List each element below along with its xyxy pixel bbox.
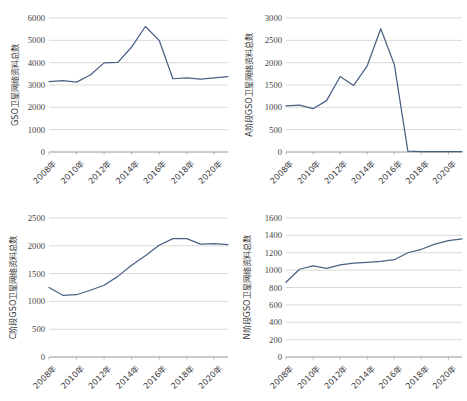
y-tick-label: 1400	[265, 230, 282, 240]
y-tick-label: 3000	[265, 13, 282, 23]
y-tick-label: 1200	[265, 248, 282, 258]
y-tick-label: 400	[269, 317, 282, 327]
series-line	[49, 26, 228, 82]
y-axis-title: GSO卫星网络资料总数	[10, 44, 20, 126]
y-tick-label: 2500	[28, 213, 45, 223]
x-tick-label: 2020年	[430, 363, 457, 390]
x-tick-label: 2018年	[169, 363, 196, 390]
x-tick-label: 2012年	[322, 363, 349, 390]
series-line	[286, 239, 462, 282]
y-tick-label: 3000	[28, 80, 45, 90]
y-tick-label: 500	[32, 324, 45, 334]
y-tick-label: 500	[269, 125, 282, 135]
series-line	[49, 239, 228, 296]
chart-panel-n-stage: 020040060080010001200140016002008年2010年2…	[234, 200, 467, 401]
y-axis-title: C阶段GSO卫星网络资料总数	[8, 236, 18, 340]
y-tick-label: 2500	[265, 35, 282, 45]
x-tick-label: 2008年	[268, 363, 295, 390]
y-tick-label: 1000	[265, 102, 282, 112]
y-tick-label: 1500	[28, 269, 45, 279]
x-tick-label: 2012年	[322, 158, 349, 185]
y-tick-label: 6000	[28, 13, 45, 23]
x-tick-label: 2008年	[31, 158, 58, 185]
x-tick-label: 2016年	[141, 158, 168, 185]
y-tick-label: 0	[278, 352, 282, 362]
y-tick-label: 2000	[265, 58, 282, 68]
x-tick-label: 2020年	[430, 158, 457, 185]
chart-c-stage-gso-total: 050010001500200025002008年2010年2012年2014年…	[0, 200, 234, 401]
y-tick-label: 2000	[28, 241, 45, 251]
y-axis-title: A阶段GSO卫星网络资料总数	[244, 33, 254, 137]
y-tick-label: 1500	[265, 80, 282, 90]
y-tick-label: 1000	[28, 125, 45, 135]
x-tick-label: 2018年	[403, 158, 430, 185]
x-tick-label: 2018年	[403, 363, 430, 390]
x-tick-label: 2010年	[58, 158, 85, 185]
y-tick-label: 0	[41, 352, 45, 362]
x-tick-label: 2020年	[196, 363, 223, 390]
series-line	[286, 29, 462, 152]
x-tick-label: 2016年	[376, 158, 403, 185]
x-tick-label: 2014年	[349, 363, 376, 390]
y-tick-label: 1000	[265, 265, 282, 275]
x-tick-label: 2014年	[349, 158, 376, 185]
chart-grid: 01000200030004000500060002008年2010年2012年…	[0, 0, 467, 401]
y-tick-label: 200	[269, 335, 282, 345]
x-tick-label: 2008年	[268, 158, 295, 185]
x-tick-label: 2016年	[376, 363, 403, 390]
x-tick-label: 2020年	[196, 158, 223, 185]
x-tick-label: 2016年	[141, 363, 168, 390]
x-tick-label: 2012年	[86, 158, 113, 185]
y-tick-label: 800	[269, 283, 282, 293]
x-tick-label: 2010年	[58, 363, 85, 390]
y-tick-label: 0	[278, 147, 282, 157]
chart-panel-c-stage: 050010001500200025002008年2010年2012年2014年…	[0, 200, 234, 401]
chart-n-stage-gso-total: 020040060080010001200140016002008年2010年2…	[234, 200, 467, 401]
x-tick-label: 2014年	[114, 363, 141, 390]
chart-gso-total: 01000200030004000500060002008年2010年2012年…	[0, 0, 234, 200]
y-tick-label: 2000	[28, 102, 45, 112]
chart-a-stage-gso-total: 0500100015002000250030002008年2010年2012年2…	[234, 0, 467, 200]
y-tick-label: 1600	[265, 213, 282, 223]
x-tick-label: 2010年	[295, 363, 322, 390]
chart-panel-gso-total: 01000200030004000500060002008年2010年2012年…	[0, 0, 234, 200]
y-tick-label: 600	[269, 300, 282, 310]
y-tick-label: 5000	[28, 35, 45, 45]
x-tick-label: 2010年	[295, 158, 322, 185]
x-tick-label: 2014年	[114, 158, 141, 185]
y-axis-title: N阶段GSO卫星网络资料总数	[242, 235, 252, 339]
y-tick-label: 1000	[28, 296, 45, 306]
y-tick-label: 0	[41, 147, 45, 157]
x-tick-label: 2018年	[169, 158, 196, 185]
x-tick-label: 2012年	[86, 363, 113, 390]
chart-panel-a-stage: 0500100015002000250030002008年2010年2012年2…	[234, 0, 467, 200]
y-tick-label: 4000	[28, 58, 45, 68]
x-tick-label: 2008年	[31, 363, 58, 390]
